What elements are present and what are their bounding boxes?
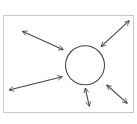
diagram-canvas — [0, 0, 137, 124]
background — [0, 0, 137, 124]
